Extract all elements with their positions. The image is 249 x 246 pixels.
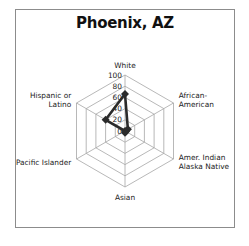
- category-label: Latino: [48, 100, 71, 109]
- axis-spoke: [125, 103, 174, 131]
- radial-tick-label: 20: [113, 115, 123, 124]
- radial-tick-label: 100: [108, 71, 122, 80]
- axis-spoke: [125, 131, 174, 159]
- radar-chart: 020406080100 WhiteAfrican-AmericanAmer. …: [0, 0, 249, 246]
- category-label: Pacific Islander: [16, 158, 72, 167]
- category-label: Hispanic or: [30, 91, 72, 100]
- category-label: African-: [179, 91, 208, 100]
- category-label: Asian: [115, 193, 135, 202]
- category-label: White: [114, 61, 136, 70]
- category-label: American: [179, 100, 214, 109]
- category-label: Alaska Native: [179, 162, 230, 171]
- radial-tick-label: 80: [113, 82, 123, 91]
- category-label: Amer. Indian: [179, 153, 226, 162]
